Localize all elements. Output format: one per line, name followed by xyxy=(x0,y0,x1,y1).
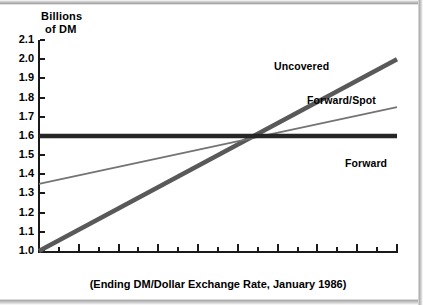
series-label-forward-spot: Forward/Spot xyxy=(307,94,376,106)
y-tick-label: 2.1 xyxy=(19,33,34,45)
series-line-uncovered xyxy=(39,59,397,251)
plot-area: 1.01.11.21.31.41.51.61.71.81.92.02.1 2.2… xyxy=(38,40,397,252)
y-tick-label: 2.0 xyxy=(19,52,34,64)
y-tick-label: 1.7 xyxy=(19,110,34,122)
series-line-forward-spot xyxy=(39,107,397,184)
frame-right-border xyxy=(418,0,423,305)
y-axis-title-line2: of DM xyxy=(45,23,82,36)
y-tick-label: 1.3 xyxy=(19,186,34,198)
y-tick-label: 1.9 xyxy=(19,71,34,83)
y-tick-label: 1.0 xyxy=(19,244,34,256)
y-tick-label: 1.4 xyxy=(19,167,34,179)
y-axis-title: Billions of DM xyxy=(41,10,82,36)
y-tick-label: 1.6 xyxy=(19,129,34,141)
y-axis-title-line1: Billions xyxy=(41,10,82,23)
chart-figure: Billions of DM 1.01.11.21.31.41.51.61.71… xyxy=(0,0,423,305)
series-label-uncovered: Uncovered xyxy=(274,60,329,72)
y-tick-label: 1.5 xyxy=(19,148,34,160)
y-tick-label: 1.1 xyxy=(19,225,34,237)
series-lines xyxy=(38,40,398,253)
x-axis-title: (Ending DM/Dollar Exchange Rate, January… xyxy=(38,278,398,290)
y-tick-label: 1.2 xyxy=(19,206,34,218)
frame-bottom-border xyxy=(0,299,423,305)
series-label-forward: Forward xyxy=(345,157,387,169)
y-tick-label: 1.8 xyxy=(19,91,34,103)
frame-top-border xyxy=(0,0,423,5)
